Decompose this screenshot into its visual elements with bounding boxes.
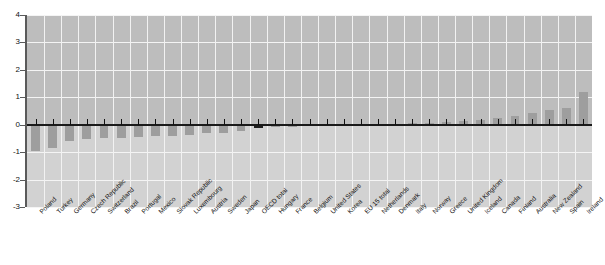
y-tick-mark bbox=[20, 42, 25, 43]
vertical-gridline bbox=[78, 15, 79, 207]
x-tick-mark bbox=[121, 119, 122, 125]
vertical-gridline bbox=[44, 15, 45, 207]
x-tick-mark bbox=[566, 119, 567, 125]
x-tick-mark bbox=[241, 119, 242, 125]
vertical-gridline bbox=[284, 15, 285, 207]
vertical-gridline bbox=[61, 15, 62, 207]
vertical-gridline bbox=[472, 15, 473, 207]
bar bbox=[202, 125, 211, 134]
vertical-gridline bbox=[181, 15, 182, 207]
x-tick-mark bbox=[258, 119, 259, 125]
y-tick-mark bbox=[20, 70, 25, 71]
bar bbox=[117, 125, 126, 139]
vertical-gridline bbox=[369, 15, 370, 207]
vertical-gridline bbox=[387, 15, 388, 207]
y-tick-label: -3 bbox=[0, 203, 20, 211]
y-tick-label: 3 bbox=[0, 38, 20, 46]
vertical-gridline bbox=[335, 15, 336, 207]
y-tick-mark bbox=[20, 15, 25, 16]
x-tick-mark bbox=[53, 119, 54, 125]
x-axis-labels: PolandTurkeyGermanyCzech RepublicSwitzer… bbox=[27, 210, 592, 265]
plot-area bbox=[27, 15, 592, 207]
vertical-gridline bbox=[215, 15, 216, 207]
x-tick-mark bbox=[292, 119, 293, 125]
x-tick-mark bbox=[224, 119, 225, 125]
vertical-gridline bbox=[455, 15, 456, 207]
x-tick-mark bbox=[549, 119, 550, 125]
vertical-gridline bbox=[524, 15, 525, 207]
x-tick-mark bbox=[70, 119, 71, 125]
x-tick-mark bbox=[173, 119, 174, 125]
x-tick-mark bbox=[464, 119, 465, 125]
vertical-gridline bbox=[130, 15, 131, 207]
x-tick-mark bbox=[429, 119, 430, 125]
y-tick-mark bbox=[20, 97, 25, 98]
y-tick-label: 4 bbox=[0, 11, 20, 19]
vertical-gridline bbox=[113, 15, 114, 207]
x-tick-mark bbox=[138, 119, 139, 125]
y-tick-mark bbox=[20, 152, 25, 153]
bar bbox=[134, 125, 143, 137]
vertical-gridline bbox=[506, 15, 507, 207]
vertical-gridline bbox=[267, 15, 268, 207]
x-tick-mark bbox=[515, 119, 516, 125]
x-tick-mark bbox=[583, 119, 584, 125]
x-tick-mark bbox=[275, 119, 276, 125]
x-tick-mark bbox=[87, 119, 88, 125]
x-tick-mark bbox=[481, 119, 482, 125]
vertical-gridline bbox=[575, 15, 576, 207]
x-tick-mark bbox=[446, 119, 447, 125]
x-tick-mark bbox=[190, 119, 191, 125]
vertical-gridline bbox=[301, 15, 302, 207]
bar bbox=[100, 125, 109, 139]
vertical-gridline bbox=[404, 15, 405, 207]
bar bbox=[168, 125, 177, 136]
vertical-gridline bbox=[318, 15, 319, 207]
y-tick-mark bbox=[20, 207, 25, 208]
x-tick-mark bbox=[327, 119, 328, 125]
y-tick-label: 2 bbox=[0, 66, 20, 74]
vertical-gridline bbox=[421, 15, 422, 207]
x-tick-mark bbox=[532, 119, 533, 125]
vertical-gridline bbox=[147, 15, 148, 207]
y-tick-label: 1 bbox=[0, 93, 20, 101]
y-tick-mark bbox=[20, 125, 25, 126]
x-tick-mark bbox=[207, 119, 208, 125]
vertical-gridline bbox=[232, 15, 233, 207]
vertical-gridline bbox=[558, 15, 559, 207]
vertical-gridline bbox=[489, 15, 490, 207]
y-tick-label: 0 bbox=[0, 121, 20, 129]
y-tick-mark bbox=[20, 180, 25, 181]
bar bbox=[185, 125, 194, 135]
vertical-gridline bbox=[198, 15, 199, 207]
x-tick-mark bbox=[344, 119, 345, 125]
bar bbox=[82, 125, 91, 139]
y-tick-label: -1 bbox=[0, 148, 20, 156]
bar bbox=[151, 125, 160, 137]
bar bbox=[31, 125, 40, 151]
x-tick-mark bbox=[395, 119, 396, 125]
x-tick-mark bbox=[498, 119, 499, 125]
bar bbox=[48, 125, 57, 148]
bar bbox=[65, 125, 74, 141]
x-tick-mark bbox=[155, 119, 156, 125]
vertical-gridline bbox=[541, 15, 542, 207]
x-tick-mark bbox=[361, 119, 362, 125]
vertical-gridline bbox=[164, 15, 165, 207]
x-tick-mark bbox=[104, 119, 105, 125]
x-tick-mark bbox=[36, 119, 37, 125]
vertical-gridline bbox=[95, 15, 96, 207]
vertical-gridline bbox=[352, 15, 353, 207]
y-tick-label: -2 bbox=[0, 176, 20, 184]
x-tick-mark bbox=[412, 119, 413, 125]
vertical-gridline bbox=[438, 15, 439, 207]
x-tick-mark bbox=[378, 119, 379, 125]
vertical-gridline bbox=[250, 15, 251, 207]
x-tick-mark bbox=[310, 119, 311, 125]
